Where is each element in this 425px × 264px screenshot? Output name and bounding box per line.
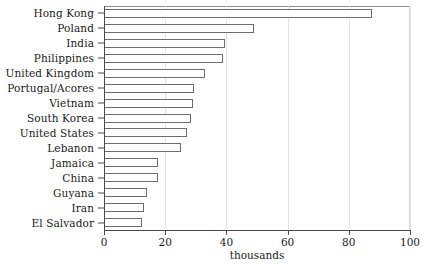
x-tick-mark (288, 230, 289, 235)
category-label: Poland (0, 21, 98, 36)
bar-row (104, 36, 410, 51)
category-label: United States (0, 126, 98, 141)
x-tick-mark (165, 230, 166, 235)
bar-row (104, 200, 410, 215)
x-tick-mark (349, 230, 350, 235)
bar-row (104, 111, 410, 126)
bar-chart: Hong KongPolandIndiaPhilippinesUnited Ki… (0, 0, 425, 264)
bar (104, 39, 225, 48)
bar-row (104, 155, 410, 170)
bar (104, 158, 158, 167)
category-label: Vietnam (0, 96, 98, 111)
category-label: Guyana (0, 185, 98, 200)
x-tick-mark (410, 230, 411, 235)
bar (104, 9, 372, 18)
x-tick-label: 20 (159, 236, 172, 248)
category-label: Lebanon (0, 140, 98, 155)
x-tick-label: 60 (281, 236, 294, 248)
bar-row (104, 6, 410, 21)
bar (104, 69, 205, 78)
bar (104, 128, 187, 137)
bar (104, 173, 158, 182)
bar-row (104, 215, 410, 230)
category-label: Portugal/Acores (0, 81, 98, 96)
category-label: Philippines (0, 51, 98, 66)
bar-row (104, 96, 410, 111)
x-tick-label: 40 (220, 236, 233, 248)
x-axis-title: thousands (104, 249, 410, 261)
x-axis-line (104, 230, 410, 231)
category-axis-labels: Hong KongPolandIndiaPhilippinesUnited Ki… (0, 6, 98, 230)
bar (104, 143, 181, 152)
x-tick-mark (104, 230, 105, 235)
bar-row (104, 21, 410, 36)
bar-series (104, 6, 410, 230)
plot-area (104, 6, 410, 230)
x-tick-label: 80 (342, 236, 355, 248)
category-label: China (0, 170, 98, 185)
category-label: United Kingdom (0, 66, 98, 81)
category-label: Jamaica (0, 155, 98, 170)
bar (104, 114, 191, 123)
bar-row (104, 185, 410, 200)
x-tick-label: 0 (101, 236, 108, 248)
bar (104, 24, 254, 33)
bar (104, 54, 223, 63)
bar (104, 84, 194, 93)
bar (104, 99, 193, 108)
y-axis-line (104, 6, 105, 230)
category-label: Hong Kong (0, 6, 98, 21)
bar-row (104, 140, 410, 155)
x-tick-mark (226, 230, 227, 235)
bar-row (104, 81, 410, 96)
category-label: India (0, 36, 98, 51)
bar-row (104, 170, 410, 185)
bar (104, 218, 142, 227)
category-label: Iran (0, 200, 98, 215)
x-tick-label: 100 (400, 236, 420, 248)
bar-row (104, 126, 410, 141)
gridline (410, 6, 411, 230)
category-label: South Korea (0, 111, 98, 126)
bar-row (104, 66, 410, 81)
bar-row (104, 51, 410, 66)
bar (104, 203, 144, 212)
category-label: El Salvador (0, 215, 98, 230)
bar (104, 188, 147, 197)
